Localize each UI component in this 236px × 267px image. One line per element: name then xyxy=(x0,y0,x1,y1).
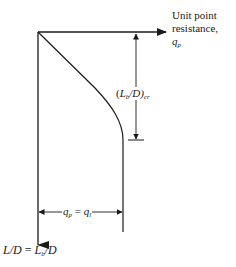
limit-resistance-label: qp = ql xyxy=(62,205,92,218)
x-axis-label-line2: resistance, xyxy=(172,22,218,35)
x-axis-label: Unit point resistance, qp xyxy=(172,9,218,48)
y-axis-label: L/D = Lb/D xyxy=(3,244,57,257)
resistance-curve xyxy=(38,32,123,232)
x-axis-label-line1: Unit point xyxy=(172,9,218,22)
x-axis-label-symbol: qp xyxy=(172,35,218,48)
critical-depth-label: (Lb/D)cr xyxy=(115,87,151,100)
